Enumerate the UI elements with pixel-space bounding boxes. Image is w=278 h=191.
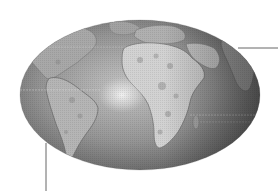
globe [20, 20, 260, 170]
world-map-svg [0, 0, 278, 191]
world-map-figure [0, 0, 278, 191]
